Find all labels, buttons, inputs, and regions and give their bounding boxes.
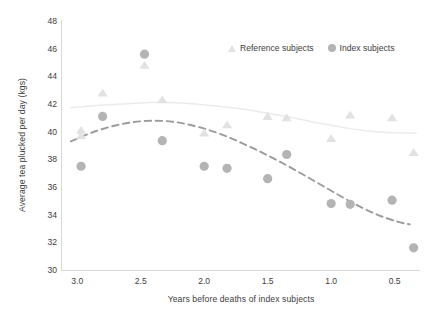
index-subject-marker	[140, 50, 149, 59]
index-subject-marker	[263, 174, 272, 183]
legend-label-reference-subjects: Reference subjects	[240, 43, 314, 53]
reference-subject-marker	[97, 89, 107, 97]
index-subjects-points	[76, 50, 418, 253]
index-subject-marker	[158, 136, 167, 145]
triangle-marker-icon	[228, 45, 236, 52]
chart-legend: Reference subjects Index subjects	[228, 43, 395, 53]
legend-item-index-subjects: Index subjects	[328, 43, 395, 53]
index-subject-marker	[346, 200, 355, 209]
circle-marker-icon	[328, 44, 336, 52]
reference-subject-marker	[199, 129, 209, 137]
reference-subject-marker	[345, 111, 355, 119]
index-trend-line	[71, 121, 410, 225]
index-subject-marker	[387, 196, 396, 205]
chart-figure: 30323436384042444648 3.02.52.01.51.00.5 …	[0, 0, 428, 317]
legend-item-reference-subjects: Reference subjects	[228, 43, 314, 53]
index-subject-marker	[200, 162, 209, 171]
index-subject-marker	[409, 243, 418, 252]
index-subject-marker	[327, 199, 336, 208]
index-subject-marker	[222, 164, 231, 173]
reference-subject-marker	[139, 61, 149, 69]
index-subject-marker	[76, 162, 85, 171]
reference-trend-line	[71, 102, 416, 133]
reference-subject-marker	[409, 148, 419, 156]
reference-subject-marker	[157, 95, 167, 103]
index-subject-marker	[98, 112, 107, 121]
legend-label-index-subjects: Index subjects	[340, 43, 395, 53]
reference-subjects-points	[76, 61, 419, 156]
reference-subject-marker	[387, 113, 397, 121]
reference-subject-marker	[326, 134, 336, 142]
index-subject-marker	[282, 150, 291, 159]
reference-subject-marker	[222, 120, 232, 128]
